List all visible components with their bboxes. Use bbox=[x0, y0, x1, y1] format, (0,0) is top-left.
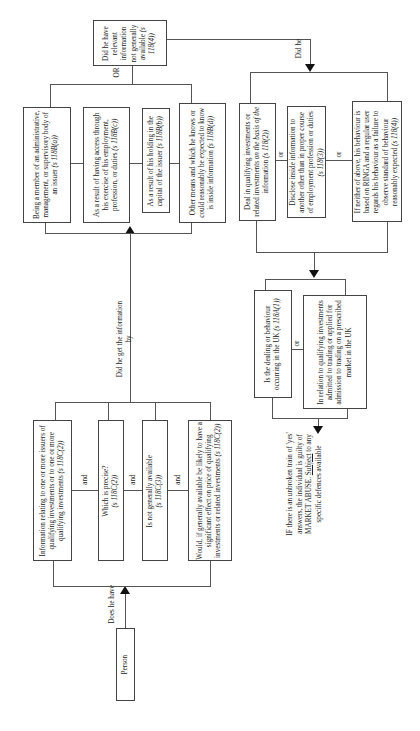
connector-line bbox=[155, 402, 156, 420]
uk-text: In relation to qualifying investments ad… bbox=[317, 300, 353, 405]
or-label: or bbox=[293, 338, 302, 350]
connector-line bbox=[210, 402, 211, 420]
edge-label-did-he-get: Did he get the information by bbox=[116, 299, 134, 379]
info-box-precise: Which is precise? (s 118C(2)) bbox=[98, 420, 124, 561]
means-box-text: As a result of having access through his… bbox=[93, 109, 121, 221]
behaviour-text: information bbox=[262, 160, 270, 194]
and-label: and bbox=[129, 471, 138, 489]
info-box-not-available: Is not generally available (s 118C(3)) bbox=[142, 420, 168, 561]
connector-line bbox=[125, 594, 126, 628]
behaviour-text-italic: on the basis of the bbox=[253, 107, 261, 159]
connector-line bbox=[210, 560, 211, 586]
statute-ref: (s 118(2)) bbox=[262, 130, 270, 158]
connector-line bbox=[55, 402, 211, 403]
connector-line bbox=[71, 163, 83, 164]
means-box-other: Other means and which he knows or could … bbox=[179, 103, 226, 223]
or-label: or bbox=[335, 149, 344, 161]
info-box-price-effect: Would, if generally available be likely … bbox=[188, 420, 232, 561]
statute-ref: (s 118(3)) bbox=[316, 148, 324, 176]
connector-line bbox=[53, 586, 211, 587]
connector-line bbox=[250, 72, 251, 103]
statute-ref: (s 118B(b)) bbox=[156, 116, 164, 148]
arrow-down-icon bbox=[309, 270, 319, 278]
connector-line bbox=[265, 279, 346, 280]
statute-ref: (s 118A(1)) bbox=[273, 298, 281, 330]
uk-box-prescribed-market: In relation to qualifying investments ad… bbox=[303, 295, 367, 409]
info-text: Is not generally available bbox=[146, 422, 155, 560]
statute-ref: (s 118C(2)) bbox=[111, 474, 119, 507]
person-box: Person bbox=[116, 628, 135, 701]
behaviour-text: Disclose inside information to another o… bbox=[288, 111, 314, 213]
statute-ref: (s 118C(2)) bbox=[57, 440, 65, 473]
connector-line bbox=[132, 66, 133, 84]
behaviour-box-ringa: If neither of above, his behaviour is ba… bbox=[352, 101, 402, 222]
connector-line bbox=[272, 418, 348, 419]
means-box-text: As a result of his holding in the capita… bbox=[147, 110, 165, 212]
means-box-employment: As a result of having access through his… bbox=[83, 107, 130, 223]
connector-line bbox=[256, 252, 388, 253]
or-label: or bbox=[277, 149, 286, 161]
behaviour-box-text: Deal in qualifying investments or relate… bbox=[244, 105, 272, 219]
means-box-holding: As a result of his holding in the capita… bbox=[142, 108, 170, 213]
info-box-text: Would, if generally available be likely … bbox=[196, 421, 224, 559]
uk-box-text: In relation to qualifying investments ad… bbox=[317, 297, 354, 407]
connector-line bbox=[108, 402, 109, 420]
behaviour-box-text: Disclose inside information to another o… bbox=[288, 108, 325, 216]
connector-line bbox=[250, 72, 388, 73]
decision-relevant-info: Did he have relevant information not gen… bbox=[93, 20, 167, 66]
edge-label-does-he-have: Does he have bbox=[108, 585, 117, 625]
means-box-text: Being a member of an administrative, man… bbox=[33, 109, 61, 221]
statute-ref: (s 118C(3)) bbox=[155, 474, 163, 507]
arrow-up-icon bbox=[120, 586, 130, 594]
statute-ref: (s 118(4)) bbox=[391, 117, 399, 145]
behaviour-box-deal: Deal in qualifying investments or relate… bbox=[239, 103, 276, 221]
person-label: Person bbox=[121, 630, 130, 700]
behaviour-box-disclose: Disclose inside information to another o… bbox=[287, 106, 326, 218]
connector-line bbox=[45, 233, 192, 234]
decision-text: Did he have relevant information not gen… bbox=[102, 21, 157, 65]
edge-label-or: OR bbox=[113, 66, 122, 80]
statute-ref: (s 118B(d)) bbox=[207, 116, 215, 148]
connector-line bbox=[191, 222, 192, 233]
and-label: and bbox=[174, 471, 183, 489]
behaviour-box-text: If neither of above, his behaviour is ba… bbox=[354, 103, 400, 220]
connector-line bbox=[53, 560, 54, 586]
connector-line bbox=[310, 39, 311, 66]
uk-box-occurring: Is the dealing or behaviour occurring in… bbox=[254, 290, 292, 398]
info-box-text: Which is precise? (s 118C(2)) bbox=[102, 422, 120, 560]
connector-line bbox=[55, 402, 56, 420]
and-label: and bbox=[81, 471, 90, 489]
edge-label-did-he: Did he bbox=[295, 36, 304, 62]
connector-line bbox=[387, 72, 388, 103]
connector-line bbox=[45, 222, 46, 233]
connector-line bbox=[272, 398, 273, 418]
means-box-member: Being a member of an administrative, man… bbox=[23, 107, 71, 223]
arrow-down-icon bbox=[305, 64, 315, 72]
connector-line bbox=[124, 490, 142, 491]
connector-line bbox=[314, 252, 315, 272]
connector-line bbox=[387, 222, 388, 252]
info-box-relating: Information relating to one or more issu… bbox=[33, 420, 72, 561]
info-box-text: Is not generally available (s 118C(3)) bbox=[146, 422, 164, 560]
connector-line bbox=[168, 490, 188, 491]
connector-line bbox=[191, 84, 192, 103]
statute-ref: (s 118C(2)) bbox=[215, 423, 223, 456]
connector-line bbox=[167, 39, 311, 40]
info-text: Which is precise? bbox=[102, 422, 111, 560]
connector-line bbox=[50, 84, 51, 107]
statute-ref: (s 118B(c)) bbox=[111, 119, 119, 151]
connector-line bbox=[72, 490, 98, 491]
statute-ref: (s 118B(a)) bbox=[52, 135, 60, 167]
info-box-text: Information relating to one or more issu… bbox=[39, 421, 67, 559]
connector-line bbox=[347, 409, 348, 418]
conclusion-subject: Subject bbox=[305, 454, 313, 476]
conclusion-text: IF there is an unbroken train of 'yes' a… bbox=[286, 424, 334, 544]
connector-line bbox=[345, 279, 346, 295]
connector-line bbox=[50, 84, 192, 85]
connector-line bbox=[170, 163, 179, 164]
connector-line bbox=[256, 221, 257, 252]
means-box-text: Other means and which he knows or could … bbox=[189, 105, 217, 221]
uk-box-text: Is the dealing or behaviour occurring in… bbox=[264, 292, 282, 396]
connector-line bbox=[130, 163, 142, 164]
